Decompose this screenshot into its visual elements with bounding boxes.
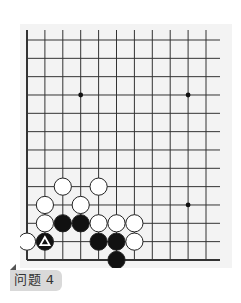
black-stone[interactable]	[90, 233, 107, 250]
star-point-icon	[186, 203, 191, 208]
black-stone[interactable]	[108, 251, 125, 268]
black-stone-disc	[72, 215, 89, 232]
problem-label: 问题 4	[14, 272, 54, 288]
go-board	[20, 24, 232, 268]
black-stone-disc	[108, 251, 125, 268]
black-stone[interactable]	[108, 233, 125, 250]
white-stone-disc	[20, 233, 36, 250]
white-stone[interactable]	[36, 215, 53, 232]
white-stone-disc	[108, 215, 125, 232]
white-stone[interactable]	[90, 215, 107, 232]
black-stone[interactable]	[72, 215, 89, 232]
white-stone[interactable]	[72, 196, 89, 213]
star-point-icon	[78, 93, 83, 98]
go-board-grid[interactable]	[20, 24, 232, 268]
white-stone-disc	[126, 215, 143, 232]
white-stone-disc	[72, 196, 89, 213]
white-stone[interactable]	[126, 215, 143, 232]
white-stone[interactable]	[108, 215, 125, 232]
star-point-icon	[186, 93, 191, 98]
white-stone-disc	[36, 196, 53, 213]
black-stone-disc	[90, 233, 107, 250]
black-stone[interactable]	[36, 233, 53, 250]
white-stone[interactable]	[126, 233, 143, 250]
white-stone-disc	[36, 215, 53, 232]
white-stone-disc	[90, 178, 107, 195]
white-stone[interactable]	[54, 178, 71, 195]
white-stone[interactable]	[20, 233, 36, 250]
black-stone[interactable]	[54, 215, 71, 232]
white-stone[interactable]	[90, 178, 107, 195]
black-stone-disc	[54, 215, 71, 232]
white-stone[interactable]	[36, 196, 53, 213]
white-stone-disc	[90, 215, 107, 232]
black-stone-disc	[108, 233, 125, 250]
white-stone-disc	[54, 178, 71, 195]
white-stone-disc	[126, 233, 143, 250]
